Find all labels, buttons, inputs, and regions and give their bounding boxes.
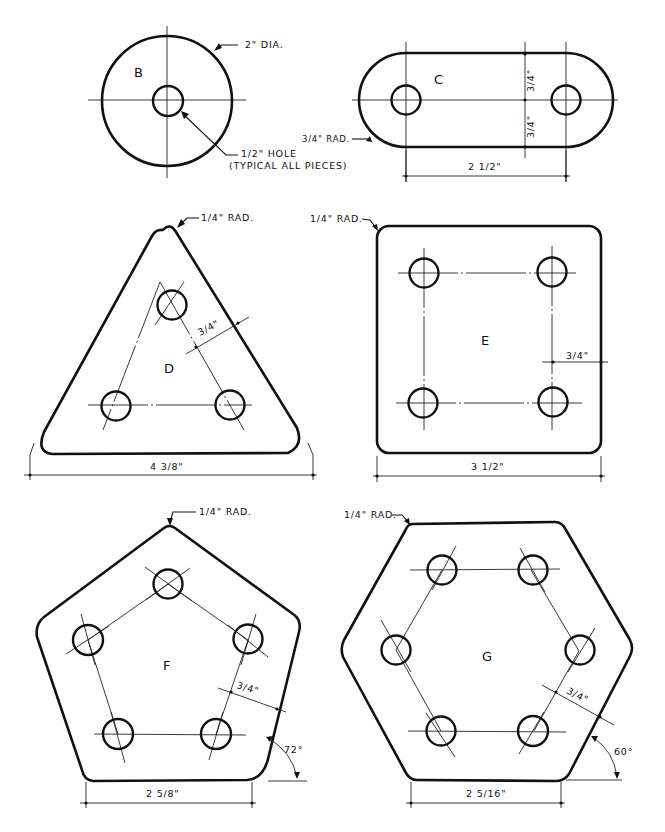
piece-e-radius-arrow <box>372 224 378 231</box>
piece-d-label: D <box>164 361 174 376</box>
piece-g-centerline-top <box>410 569 560 570</box>
piece-c: C 3/4" 3/4" 3/4" RAD. 2 1/2" <box>302 42 618 182</box>
piece-e-hole-br <box>539 388 568 417</box>
piece-d-centerline-right <box>160 282 244 430</box>
piece-f-side-label: 2 5/8" <box>146 788 180 799</box>
piece-g-label: G <box>482 649 492 664</box>
piece-f-offset-label: 3/4" <box>235 679 260 696</box>
piece-b-label: B <box>134 65 143 80</box>
piece-b-diameter-arrow <box>214 43 222 51</box>
piece-c-label: C <box>434 72 443 87</box>
piece-d-radius-arrow <box>177 219 185 228</box>
piece-c-radius-label: 3/4" RAD. <box>302 134 350 144</box>
piece-b-hole <box>153 86 183 116</box>
piece-e-radius-label: 1/4" RAD. <box>310 213 363 224</box>
piece-d-width-label: 4 3/8" <box>150 461 184 472</box>
piece-f-radius-label: 1/4" RAD. <box>199 506 252 517</box>
piece-g-angle-label: 60° <box>614 746 633 757</box>
piece-d-hole-top <box>158 291 187 320</box>
piece-f-label: F <box>163 658 170 673</box>
piece-b: B 2" DIA. 1/2" HOLE (TYPICAL ALL PIECES) <box>88 26 347 178</box>
piece-d-offset-label: 3/4" <box>196 317 221 337</box>
piece-g-side-label: 2 5/16" <box>466 788 506 799</box>
piece-f-angle-label: 72° <box>284 744 303 755</box>
piece-g: G 3/4" 60° 1/4" RAD. 2 5/16" <box>342 509 634 808</box>
piece-b-hole-note: (TYPICAL ALL PIECES) <box>229 160 347 171</box>
piece-f-radius-leader <box>170 512 196 522</box>
piece-b-diameter-label: 2" DIA. <box>245 39 284 50</box>
piece-e-offset-label: 3/4" <box>566 350 589 361</box>
piece-d-radius-label: 1/4" RAD. <box>201 212 254 223</box>
piece-f-hole-right <box>234 625 263 654</box>
piece-g-hole-right <box>566 636 595 665</box>
piece-c-upper-offset-label: 3/4" <box>525 69 536 92</box>
piece-b-hole-arrow <box>181 111 189 119</box>
piece-f-outline <box>37 526 300 781</box>
piece-c-lower-offset-label: 3/4" <box>525 115 536 138</box>
piece-e-label: E <box>481 333 489 348</box>
piece-g-angle-arc <box>594 738 617 777</box>
piece-c-spacing-label: 2 1/2" <box>468 161 502 172</box>
piece-e-width-label: 3 1/2" <box>471 461 505 472</box>
piece-e: E 3/4" 1/4" RAD. 3 1/2" <box>310 213 608 482</box>
piece-g-offset-label: 3/4" <box>565 685 590 705</box>
piece-d: D 3/4" 1/4" RAD. 4 3/8" <box>24 212 317 480</box>
drawing-sheet: B 2" DIA. 1/2" HOLE (TYPICAL ALL PIECES)… <box>0 0 665 832</box>
piece-g-centerline-bottom <box>408 731 566 732</box>
piece-f: F 3/4" 72° 1/4" RAD. 2 5/8" <box>37 506 307 808</box>
piece-d-outline <box>41 226 299 454</box>
technical-drawing: B 2" DIA. 1/2" HOLE (TYPICAL ALL PIECES)… <box>0 0 665 832</box>
piece-b-hole-label: 1/2" HOLE <box>241 148 297 159</box>
piece-g-radius-label: 1/4" RAD. <box>344 509 397 520</box>
